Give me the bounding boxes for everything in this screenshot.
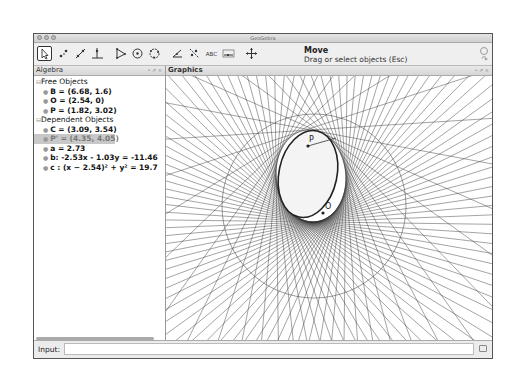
algebra-item[interactable]: ●P = (1.82, 3.02) — [34, 106, 165, 116]
algebra-view: Algebra • ⇗ × ⊟Free Objects ●B = (6.68, … — [34, 66, 166, 342]
graphics-view[interactable]: Graphics • ⇗ × P O — [166, 66, 492, 342]
point-p — [306, 144, 309, 147]
move-tool-button[interactable] — [37, 46, 52, 61]
algebra-item[interactable]: ●b: -2.53x - 1.03y = -11.46 — [34, 153, 165, 163]
point-tool-button[interactable] — [56, 46, 71, 61]
visibility-toggle-icon[interactable]: ● — [43, 107, 48, 114]
graphics-header: Graphics • ⇗ × — [166, 66, 492, 76]
line-tool-button[interactable] — [73, 46, 88, 61]
view-controls-icon[interactable]: • ⇗ × — [147, 66, 162, 75]
text-icon: ABC — [206, 51, 217, 57]
group-free-objects[interactable]: ⊟Free Objects — [34, 77, 165, 87]
graphics-canvas[interactable]: P O — [166, 76, 492, 342]
undo-button[interactable] — [480, 47, 488, 55]
slider-icon — [222, 47, 235, 60]
line-icon — [74, 47, 87, 60]
polygon-icon — [114, 47, 127, 60]
circle-three-points-tool-button[interactable] — [147, 46, 162, 61]
redo-button[interactable]: ↷ — [481, 56, 488, 64]
title-bar: GeoGebra — [34, 34, 492, 43]
label-o: O — [325, 202, 331, 211]
input-bar: Input: — [34, 340, 492, 358]
circle-three-points-icon — [148, 47, 161, 60]
algebra-list: ⊟Free Objects ●B = (6.68, 1.6) ●O = (2.5… — [34, 76, 165, 172]
algebra-title: Algebra — [36, 66, 63, 74]
point-icon — [57, 47, 70, 60]
slider-tool-button[interactable] — [221, 46, 236, 61]
algebra-item[interactable]: ●a = 2.73 — [34, 144, 165, 154]
view-controls-icon[interactable]: • ⇗ × — [474, 66, 489, 75]
visibility-toggle-icon[interactable]: ● — [43, 126, 48, 133]
reflect-icon — [188, 47, 201, 60]
input-field[interactable] — [64, 343, 474, 355]
circle-tool-button[interactable] — [130, 46, 145, 61]
algebra-item[interactable]: ●C = (3.09, 3.54) — [34, 125, 165, 135]
angle-icon — [171, 47, 184, 60]
active-tool-description: Drag or select objects (Esc) — [304, 55, 407, 64]
toolbar: ABC Move Drag or select objects (Esc) ↷ — [34, 43, 492, 66]
group-dependent-objects[interactable]: ⊟Dependent Objects — [34, 115, 165, 125]
active-tool-title: Move — [304, 46, 328, 55]
visibility-toggle-icon[interactable]: ● — [43, 145, 48, 152]
cursor-arrow-icon — [38, 47, 51, 60]
algebra-item[interactable]: ●O = (2.54, 0) — [34, 96, 165, 106]
text-tool-button[interactable]: ABC — [204, 46, 219, 61]
point-o — [321, 211, 324, 214]
graphics-title: Graphics — [168, 66, 203, 74]
reflect-tool-button[interactable] — [187, 46, 202, 61]
algebra-header: Algebra • ⇗ × — [34, 66, 165, 76]
label-p: P — [309, 135, 314, 144]
input-help-button[interactable] — [479, 345, 487, 352]
algebra-item-selected[interactable]: ●P' = (4.35, 4.05) — [34, 134, 115, 144]
geogebra-window: GeoGebra ABC — [33, 33, 493, 359]
visibility-toggle-icon[interactable]: ● — [43, 97, 48, 104]
algebra-item[interactable]: ●B = (6.68, 1.6) — [34, 87, 165, 97]
polygon-tool-button[interactable] — [113, 46, 128, 61]
perpendicular-line-tool-button[interactable] — [90, 46, 105, 61]
visibility-toggle-icon[interactable]: ● — [43, 154, 48, 161]
move-graphics-icon — [245, 47, 258, 60]
algebra-item[interactable]: ●c : (x − 2.54)² + y² = 19.7 — [34, 163, 165, 173]
visibility-toggle-icon[interactable]: ● — [43, 135, 48, 142]
move-graphics-tool-button[interactable] — [244, 46, 259, 61]
angle-tool-button[interactable] — [170, 46, 185, 61]
window-title: GeoGebra — [34, 34, 492, 42]
visibility-toggle-icon[interactable]: ● — [43, 88, 48, 95]
perpendicular-icon — [91, 47, 104, 60]
circle-icon — [131, 47, 144, 60]
input-label: Input: — [38, 345, 60, 354]
visibility-toggle-icon[interactable]: ● — [43, 164, 48, 171]
